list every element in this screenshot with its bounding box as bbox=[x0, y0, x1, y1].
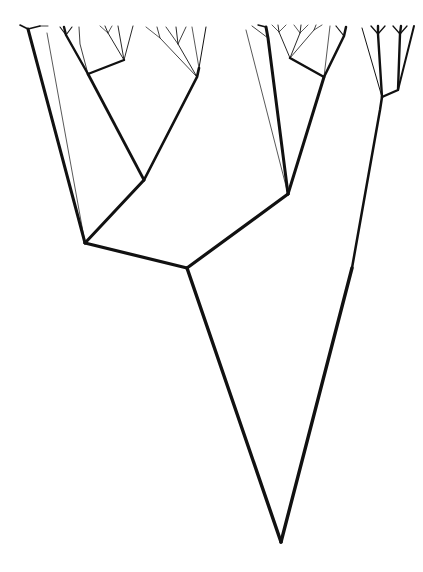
figure-background bbox=[0, 0, 423, 572]
tree-figure bbox=[0, 0, 423, 572]
phylogenetic-tree-canvas bbox=[0, 0, 423, 572]
